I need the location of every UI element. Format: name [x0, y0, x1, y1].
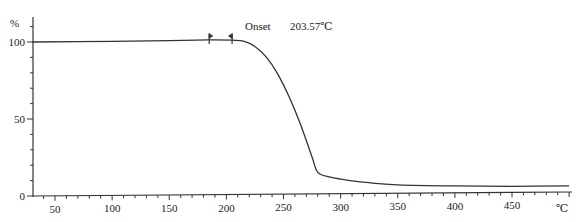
axes [33, 17, 572, 197]
x-ticks [44, 192, 570, 201]
tga-curve [32, 40, 569, 186]
x-tick-label: 100 [104, 202, 121, 214]
x-tick-label: 350 [390, 200, 407, 212]
x-tick-label: 250 [275, 201, 292, 213]
x-unit-label: ℃ [556, 202, 568, 214]
x-tick-labels: 50100150200250300350400450 [50, 199, 521, 214]
y-unit-label: % [10, 17, 19, 29]
x-tick-label: 450 [504, 199, 521, 211]
onset-markers [209, 34, 232, 44]
x-tick-label: 400 [447, 200, 464, 212]
tga-chart: 050100 50100150200250300350400450 % ℃ On… [0, 0, 576, 222]
y-tick-label: 0 [20, 190, 26, 202]
onset-marker-flag [229, 34, 232, 38]
onset-marker-flag [209, 34, 212, 38]
y-ticks [27, 27, 33, 196]
y-tick-label: 50 [14, 113, 26, 125]
x-tick-label: 150 [161, 202, 178, 214]
x-tick-label: 50 [50, 203, 62, 215]
onset-value: 203.57℃ [290, 20, 333, 32]
onset-label: Onset [245, 20, 271, 32]
y-tick-labels: 050100 [9, 36, 26, 202]
x-tick-label: 200 [218, 202, 235, 214]
x-axis [33, 192, 572, 196]
x-tick-label: 300 [332, 201, 349, 213]
y-tick-label: 100 [9, 36, 26, 48]
